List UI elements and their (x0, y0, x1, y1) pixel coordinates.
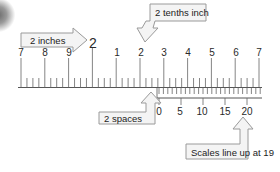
spaces-callout-text: 2 spaces (100, 112, 146, 126)
main-scale-label: 3 (161, 47, 167, 58)
main-scale-label: 6 (233, 47, 239, 58)
vernier-scale-label: 0 (156, 106, 162, 117)
inch-number-label: 2 (89, 36, 97, 50)
main-scale-label: 2 (138, 47, 144, 58)
main-scale-label: 5 (209, 47, 215, 58)
main-scale-label: 1 (114, 47, 120, 58)
vernier-scale-label: 20 (241, 106, 252, 117)
lineup-callout-text: Scales line up at 19 (187, 146, 278, 160)
tenths-callout-text: 2 tenths inch (151, 6, 213, 20)
main-scale-label: 7 (18, 47, 24, 58)
main-scale-label: 4 (185, 47, 191, 58)
vernier-scale-ticks (159, 88, 260, 106)
vernier-scale-label: 15 (219, 106, 230, 117)
main-scale-label: 9 (66, 47, 72, 58)
vernier-diagram: 7891234567 2 05101520 2 inches 2 tenths … (0, 0, 280, 172)
vernier-scale-label: 5 (177, 106, 183, 117)
main-scale-label: 7 (256, 47, 262, 58)
vernier-scale-label: 10 (196, 106, 207, 117)
main-scale-label: 8 (42, 47, 48, 58)
inches-callout-text: 2 inches (26, 34, 69, 48)
